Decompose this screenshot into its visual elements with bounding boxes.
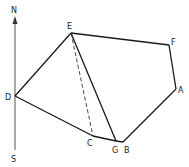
north-label: N [11,6,17,15]
edge-EG [71,33,116,141]
edge-GC [93,136,116,141]
edge-CD [15,96,93,136]
vertex-label-C: C [87,139,93,148]
pentagon-diagram: N S E F A B G C D [0,0,189,167]
edge-AB [123,89,176,142]
vertex-label-F: F [171,38,176,47]
vertex-label-A: A [178,86,184,95]
dashed-edge-EC [71,33,93,136]
vertex-label-G: G [112,146,118,155]
vertex-label-D: D [5,93,11,102]
polygon-edges [15,33,176,142]
vertex-label-E: E [67,22,72,31]
edge-DE [15,33,71,96]
edge-BG [116,141,123,142]
north-arrow-icon [13,16,18,24]
south-label: S [11,155,16,164]
edge-FA [169,45,176,89]
edge-EF [71,33,169,45]
vertex-label-B: B [124,146,130,155]
